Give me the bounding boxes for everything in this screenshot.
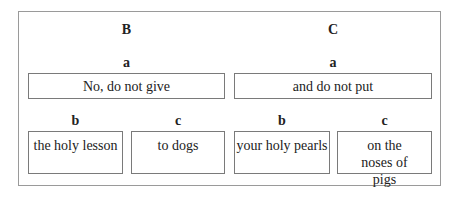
column-c-b-text: your holy pearls [237, 138, 328, 153]
column-b-b-label: b [28, 113, 123, 129]
column-c-a-box: and do not put [234, 73, 432, 99]
column-b-a-box: No, do not give [28, 73, 225, 99]
column-c-b-label: b [234, 113, 330, 129]
column-c-label: C [234, 22, 432, 38]
column-b-label: B [28, 22, 225, 38]
column-b-a-text: No, do not give [83, 78, 170, 95]
column-b-c-text: to dogs [158, 138, 199, 153]
column-b-b-box: the holy lesson [28, 131, 123, 174]
column-c-a-label: a [234, 55, 432, 71]
column-c-b-box: your holy pearls [234, 131, 330, 174]
column-b-c-box: to dogs [131, 131, 225, 174]
column-b-a-label: a [28, 55, 225, 71]
column-b-b-text: the holy lesson [34, 138, 118, 153]
column-c-a-text: and do not put [293, 78, 374, 95]
column-c-c-box: on the noses of pigs [337, 131, 432, 174]
column-b-c-label: c [131, 113, 225, 129]
column-c-c-label: c [337, 113, 432, 129]
